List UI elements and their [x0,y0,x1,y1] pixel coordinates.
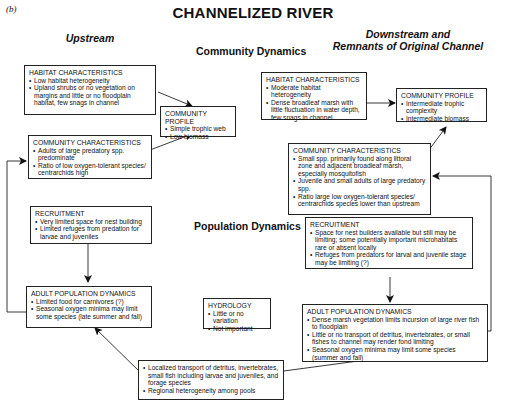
box-heading: HABITAT CHARACTERISTICS [29,69,151,77]
upstream-community-profile-box: COMMUNITY PROFILE Simple trophic web Low… [160,106,236,137]
list-item: Intermediate biomass [401,115,482,123]
box-heading: ADULT POPULATION DYNAMICS [307,308,483,316]
upstream-community-characteristics-box: COMMUNITY CHARACTERISTICS Adults of larg… [28,135,152,179]
list-item: Ratio of low oxygen-tolerant species/ ce… [33,162,147,177]
list-item: Low habitat heterogeneity [29,77,151,85]
list-item: Little or no variation [208,310,266,325]
list-item: Juvenile and small adults of large preda… [293,177,426,192]
list-item: Little or no transport of detritus, inve… [307,331,483,346]
list-item: Dense marsh vegetation limits incursion … [307,316,483,331]
list-item: Small spp. primarily found along littora… [293,155,426,178]
list-item: Space for nest builders available but st… [310,229,468,252]
box-heading: HABITAT CHARACTERISTICS [266,76,362,84]
box-heading: RECRUITMENT [310,221,468,229]
transport-box: Localized transport of detritus, inverte… [138,360,284,400]
list-item: Moderate habitat heterogeneity [266,84,362,99]
list-item: Seasonal oxygen minima may limit some sp… [307,346,483,361]
upstream-adult-population-box: ADULT POPULATION DYNAMICS Limited food f… [26,286,152,328]
upstream-habitat-box: HABITAT CHARACTERISTICS Low habitat hete… [24,65,156,115]
list-item: Low biomass [165,133,231,141]
downstream-community-profile-box: COMMUNITY PROFILE Intermediate trophic c… [396,88,487,122]
list-item: Localized transport of detritus, inverte… [143,364,279,387]
box-heading: COMMUNITY PROFILE [165,110,231,125]
list-item: Seasonal oxygen minima may limit some sp… [31,305,147,320]
downstream-habitat-box: HABITAT CHARACTERISTICS Moderate habitat… [261,72,367,120]
list-item: Refuges from predators for larval and ju… [310,251,468,266]
box-heading: HYDROLOGY [208,302,266,310]
downstream-community-characteristics-box: COMMUNITY CHARACTERISTICS Small spp. pri… [288,143,431,215]
list-item: Regional heterogeneity among pools [143,387,279,395]
list-item: Limited refuges from predation for larva… [35,225,147,240]
list-item: Adults of large predatory spp. predomina… [33,147,147,162]
box-heading: ADULT POPULATION DYNAMICS [31,290,147,298]
hydrology-box: HYDROLOGY Little or no variation Not imp… [203,298,271,329]
list-item: Not important [208,325,266,333]
list-item: Intermediate trophic complexity [401,100,482,115]
list-item: Limited food for carnivores (?) [31,298,147,306]
upstream-recruitment-box: RECRUITMENT Very limited space for nest … [30,206,152,244]
list-item: Simple trophic web [165,125,231,133]
list-item: Very limited space for nest building [35,218,147,226]
downstream-recruitment-box: RECRUITMENT Space for nest builders avai… [305,217,473,269]
downstream-adult-population-box: ADULT POPULATION DYNAMICS Dense marsh ve… [302,304,488,362]
box-heading: COMMUNITY CHARACTERISTICS [33,139,147,147]
box-heading: COMMUNITY CHARACTERISTICS [293,147,426,155]
box-heading: COMMUNITY PROFILE [401,92,482,100]
list-item: Dense broadleaf marsh with little fluctu… [266,99,362,122]
box-heading: RECRUITMENT [35,210,147,218]
list-item: Upland shrubs or no vegetation on margin… [29,84,151,107]
list-item: Ratio large low oxygen-tolerant species/… [293,193,426,208]
